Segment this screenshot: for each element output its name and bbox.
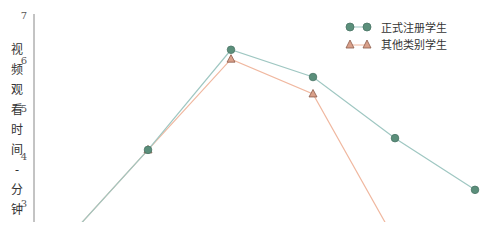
y-label-char: 时	[9, 120, 25, 140]
y-label-char: 间	[9, 140, 25, 160]
circle-data-point	[391, 134, 399, 142]
y-label-char: -	[9, 160, 25, 180]
y-label-char: 视	[9, 40, 25, 60]
series-line	[66, 59, 395, 235]
y-label-char: 观	[9, 80, 25, 100]
series-line	[66, 50, 475, 235]
y-axis-label: 视 频 观 看 时 间 - 分 钟	[9, 40, 25, 220]
triangle-data-point	[227, 55, 235, 63]
legend-label: 正式注册学生	[381, 19, 447, 35]
circle-data-point	[144, 146, 152, 154]
legend: 正式注册学生 其他类别学生	[345, 18, 447, 52]
circle-data-point	[227, 46, 235, 54]
y-label-char: 看	[9, 100, 25, 120]
series-lines	[66, 50, 475, 235]
circle-marker-icon	[345, 21, 375, 33]
legend-item-other: 其他类别学生	[345, 35, 447, 52]
legend-label: 其他类别学生	[381, 36, 447, 52]
y-label-char: 频	[9, 60, 25, 80]
y-label-char: 分	[9, 180, 25, 200]
y-tick-7: 7	[21, 10, 27, 21]
circle-data-point	[471, 186, 479, 194]
series-markers	[144, 46, 479, 194]
legend-item-registered: 正式注册学生	[345, 18, 447, 35]
circle-data-point	[309, 73, 317, 81]
triangle-marker-icon	[345, 38, 375, 50]
y-label-char: 钟	[9, 200, 25, 220]
